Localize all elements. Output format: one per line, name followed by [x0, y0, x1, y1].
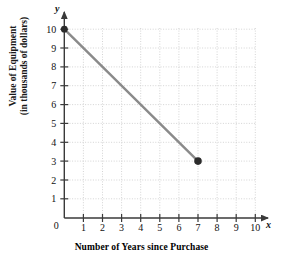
- x-axis-title: Number of Years since Purchase: [0, 242, 283, 252]
- x-tick-label-10: 10: [247, 222, 263, 233]
- y-tick-label-10: 10: [33, 24, 56, 35]
- data-series-line: [64, 29, 198, 161]
- y-tick-label-6: 6: [40, 99, 56, 110]
- y-tick-label-4: 4: [40, 137, 56, 148]
- y-axis-title-line-2: (in thousands of dollars): [19, 17, 31, 115]
- x-tick-label-7: 7: [190, 222, 206, 233]
- y-tick-label-5: 5: [40, 118, 56, 129]
- x-tick-label-4: 4: [133, 222, 149, 233]
- y-tick-label-7: 7: [40, 80, 56, 91]
- x-tick-label-5: 5: [152, 222, 168, 233]
- y-tick-label-2: 2: [40, 175, 56, 186]
- x-tick-label-8: 8: [209, 222, 225, 233]
- x-tick-label-0: 0: [48, 220, 64, 231]
- x-tick-label-2: 2: [95, 222, 111, 233]
- y-axis-variable-label: y: [55, 3, 59, 14]
- x-tick-label-6: 6: [171, 222, 187, 233]
- y-tick-label-1: 1: [40, 193, 56, 204]
- y-tick-label-8: 8: [40, 61, 56, 72]
- chart-figure: 0 1 2 3 4 5 6 7 8 9 10 1 2 3 4 5 6 7 8 9…: [0, 0, 283, 264]
- y-tick-label-3: 3: [40, 156, 56, 167]
- x-tick-label-1: 1: [75, 222, 91, 233]
- y-axis-title-line-1: Value of Equipment: [8, 26, 20, 107]
- y-tick-label-9: 9: [40, 43, 56, 54]
- x-tick-label-3: 3: [114, 222, 130, 233]
- y-axis-title: Value of Equipment (in thousands of doll…: [6, 0, 32, 146]
- x-axis-variable-label: x: [266, 219, 271, 230]
- x-tick-label-9: 9: [228, 222, 244, 233]
